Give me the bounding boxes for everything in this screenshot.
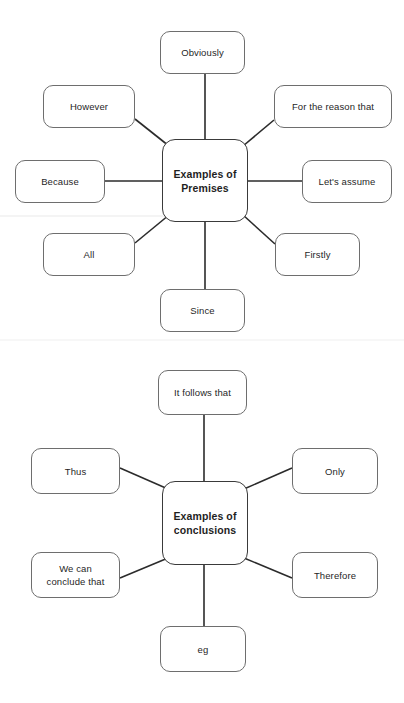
- node-conclusions-only[interactable]: Only: [292, 448, 378, 494]
- node-label: However: [70, 100, 108, 113]
- node-conclusions-it-follows-that[interactable]: It follows that: [158, 370, 247, 415]
- diagram-canvas: Examples of PremisesObviouslyHoweverFor …: [0, 0, 404, 703]
- connector-premises-all: [135, 215, 169, 243]
- node-premises-firstly[interactable]: Firstly: [275, 233, 360, 276]
- node-premises-reason[interactable]: For the reason that: [274, 85, 392, 128]
- center-node-premises[interactable]: Examples of Premises: [162, 139, 248, 222]
- node-premises-all[interactable]: All: [43, 233, 135, 276]
- node-conclusions-we-can-conclude[interactable]: We can conclude that: [31, 552, 120, 598]
- connector-conclusions-therefore: [244, 558, 292, 578]
- node-label: All: [84, 248, 95, 261]
- node-premises-since[interactable]: Since: [160, 289, 245, 332]
- node-label: It follows that: [174, 386, 231, 399]
- node-label: Because: [41, 175, 79, 188]
- node-conclusions-therefore[interactable]: Therefore: [292, 552, 378, 598]
- node-conclusions-thus[interactable]: Thus: [31, 448, 120, 494]
- node-label: Therefore: [314, 569, 356, 582]
- connector-premises-firstly: [243, 215, 275, 244]
- connector-conclusions-we-can-conclude: [120, 558, 168, 578]
- node-label: Thus: [65, 465, 87, 478]
- connector-conclusions-only: [244, 468, 292, 489]
- node-label: Firstly: [304, 248, 330, 261]
- connector-premises-however: [135, 119, 169, 146]
- node-label: For the reason that: [292, 100, 374, 113]
- node-label: Let's assume: [319, 175, 376, 188]
- node-premises-however[interactable]: However: [43, 85, 135, 128]
- node-conclusions-eg[interactable]: eg: [160, 626, 246, 672]
- node-premises-lets-assume[interactable]: Let's assume: [302, 160, 392, 203]
- node-label: Examples of Premises: [174, 167, 237, 195]
- center-node-conclusions[interactable]: Examples of conclusions: [162, 481, 248, 565]
- node-premises-obviously[interactable]: Obviously: [160, 31, 245, 74]
- node-label: Only: [325, 465, 345, 478]
- node-label: Examples of conclusions: [174, 509, 237, 537]
- node-label: We can conclude that: [47, 562, 105, 588]
- node-label: Since: [190, 304, 214, 317]
- node-premises-because[interactable]: Because: [15, 160, 105, 203]
- connector-premises-reason: [243, 120, 274, 146]
- connector-conclusions-thus: [120, 468, 168, 489]
- node-label: Obviously: [181, 46, 224, 59]
- node-label: eg: [198, 643, 209, 656]
